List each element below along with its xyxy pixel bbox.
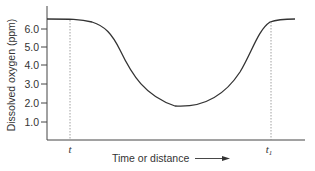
arrow-right-icon (195, 156, 230, 161)
marker-label-t: t (68, 143, 72, 155)
y-axis-title: Dissolved oxygen (ppm) (5, 19, 17, 132)
y-tick-label: 3.0 (24, 78, 39, 90)
y-ticks (41, 29, 47, 122)
y-tick-labels: 6.0 5.0 4.0 3.0 2.0 1.0 (24, 23, 39, 128)
dissolved-oxygen-chart: 6.0 5.0 4.0 3.0 2.0 1.0 Dissolved oxygen… (0, 0, 315, 171)
x-axis-title: Time or distance (112, 152, 189, 164)
marker-label-t1: t1 (266, 143, 273, 157)
dissolved-oxygen-curve (47, 19, 295, 106)
y-tick-label: 2.0 (24, 97, 39, 109)
y-tick-label: 1.0 (24, 116, 39, 128)
y-tick-label: 6.0 (24, 23, 39, 35)
y-tick-label: 4.0 (24, 59, 39, 71)
y-tick-label: 5.0 (24, 41, 39, 53)
